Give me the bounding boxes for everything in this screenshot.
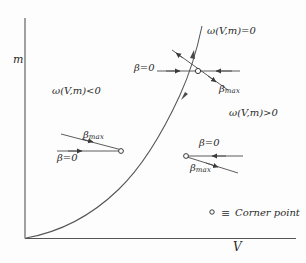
omega-positive-region-label: ω(V,m)>0 <box>229 108 278 118</box>
beta-subscript: max <box>225 87 240 95</box>
top-beta-max-arrow-up <box>176 53 183 58</box>
equals-symbol: = <box>140 62 148 73</box>
beta-subscript: max <box>89 133 104 141</box>
figure-canvas <box>0 0 306 263</box>
axes <box>25 18 296 239</box>
x-axis-label: V <box>233 241 242 253</box>
legend-text: Corner point <box>235 208 300 218</box>
equals-symbol: = <box>205 137 213 148</box>
y-axis-label: m <box>13 54 23 65</box>
corner-point-marker-left <box>119 149 124 154</box>
beta-value: 0 <box>71 152 77 163</box>
beta-value: 0 <box>148 62 154 73</box>
omega-negative-region-label: ω(V,m)<0 <box>52 86 101 96</box>
equals-symbol: = <box>63 152 71 163</box>
omega-zero-curve <box>26 26 202 238</box>
omega-zero-curve-label: ω(V,m)=0 <box>207 26 256 36</box>
beta-subscript: max <box>196 166 211 174</box>
right-beta-zero-label: β=0 <box>199 138 220 148</box>
left-beta-zero-label: β=0 <box>57 153 78 163</box>
phase-diagram-figure: m V ω(V,m)=0 ω(V,m)<0 ω(V,m)>0 β=0 βmax … <box>0 0 306 263</box>
beta-value: 0 <box>213 137 219 148</box>
corner-point-marker-right <box>184 154 189 159</box>
right-beta-max-label: βmax <box>190 163 211 174</box>
top-beta-max-arrow-down <box>208 76 216 82</box>
top-beta-zero-label: β=0 <box>134 63 155 73</box>
legend-corner-point-marker <box>210 210 214 214</box>
legend-equivalence-symbol: ≡ <box>221 207 230 220</box>
curve-arrow-upper <box>190 50 195 59</box>
corner-point-marker-top <box>195 68 200 73</box>
top-beta-max-label: βmax <box>219 84 240 95</box>
curve-arrow-lower <box>181 92 188 100</box>
left-beta-max-label: βmax <box>83 130 104 141</box>
